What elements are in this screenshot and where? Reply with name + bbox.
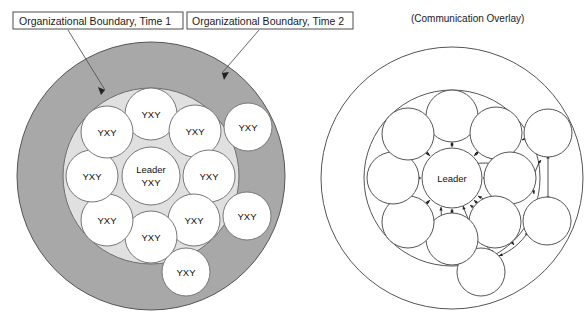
leader-label-line2: YXY xyxy=(141,177,161,188)
figure-canvas: YXY YXY YXY YXY YXY YXY YXY YXY xyxy=(0,0,584,318)
label-box-time2-text: Organizational Boundary, Time 2 xyxy=(192,15,344,27)
inner-member-label: YXY xyxy=(82,171,102,182)
leader-node: Leader YXY xyxy=(122,147,180,205)
overlay-inner-member-node xyxy=(382,108,434,160)
overlay-inner-member-node xyxy=(470,107,522,159)
outer-member-node: YXY xyxy=(223,192,271,240)
label-box-time1: Organizational Boundary, Time 1 xyxy=(13,12,183,29)
inner-member-label: YXY xyxy=(185,126,205,137)
inner-member-label: YXY xyxy=(97,215,117,226)
inner-member-node: YXY xyxy=(81,106,133,158)
overlay-outer-member-circle xyxy=(523,197,571,245)
overlay-leader-label: Leader xyxy=(437,173,467,184)
leader-label-line1: Leader xyxy=(136,164,166,175)
right-panel: (Communication Overlay) xyxy=(321,13,583,309)
inner-member-label: YXY xyxy=(97,127,117,138)
outer-member-label: YXY xyxy=(176,267,196,278)
communication-overlay-title: (Communication Overlay) xyxy=(411,13,524,24)
diagram-svg: YXY YXY YXY YXY YXY YXY YXY YXY xyxy=(0,0,584,318)
inner-member-node: YXY xyxy=(169,105,221,157)
leader-circle xyxy=(122,147,180,205)
overlay-inner-member-circle xyxy=(470,107,522,159)
inner-member-label: YXY xyxy=(141,232,161,243)
left-panel: YXY YXY YXY YXY YXY YXY YXY YXY xyxy=(13,12,353,310)
overlay-leader-node: Leader xyxy=(422,148,482,208)
inner-member-label: YXY xyxy=(141,109,161,120)
callout-line-time2 xyxy=(222,30,259,73)
label-box-time2: Organizational Boundary, Time 2 xyxy=(187,12,353,29)
outer-member-label: YXY xyxy=(237,211,257,222)
outer-member-node: YXY xyxy=(224,103,272,151)
overlay-outer-member-circle xyxy=(524,109,572,157)
overlay-inner-member-circle xyxy=(382,108,434,160)
overlay-outer-member-node xyxy=(524,109,572,157)
outer-member-label: YXY xyxy=(238,122,258,133)
inner-member-label: YXY xyxy=(199,171,219,182)
inner-member-label: YXY xyxy=(184,215,204,226)
overlay-outer-member-node xyxy=(523,197,571,245)
label-box-time1-text: Organizational Boundary, Time 1 xyxy=(19,15,171,27)
